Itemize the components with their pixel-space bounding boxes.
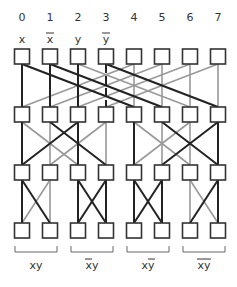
output-bracket-3	[183, 246, 225, 252]
node-r3-c3	[99, 223, 114, 238]
node-r3-c4	[127, 223, 142, 238]
node-r0-c3	[99, 49, 114, 64]
node-r1-c1	[43, 107, 58, 122]
node-r1-c5	[155, 107, 170, 122]
node-r3-c2	[71, 223, 86, 238]
node-r2-c5	[155, 165, 170, 180]
node-r1-c4	[127, 107, 142, 122]
node-r1-c2	[71, 107, 86, 122]
node-r0-c5	[155, 49, 170, 64]
output-bracket-0	[15, 246, 57, 252]
column-index-0: 0	[19, 11, 26, 24]
node-r2-c2	[71, 165, 86, 180]
column-index-4: 4	[131, 11, 138, 24]
node-r2-c6	[183, 165, 198, 180]
column-index-2: 2	[75, 11, 82, 24]
output-label-1: xy	[85, 259, 99, 272]
output-label-3: xy	[197, 259, 211, 272]
node-r0-c0	[15, 49, 30, 64]
input-label-0: x	[19, 33, 26, 46]
node-r1-c0	[15, 107, 30, 122]
column-index-5: 5	[159, 11, 166, 24]
butterfly-network-diagram: 01234567xxyyxyxyxyxy	[0, 0, 237, 287]
node-r0-c2	[71, 49, 86, 64]
node-r2-c7	[211, 165, 226, 180]
node-r0-c4	[127, 49, 142, 64]
node-r0-c6	[183, 49, 198, 64]
network-edges	[22, 64, 218, 223]
node-r3-c0	[15, 223, 30, 238]
node-r2-c1	[43, 165, 58, 180]
output-bracket-1	[71, 246, 113, 252]
node-r0-c7	[211, 49, 226, 64]
input-label-1: x	[47, 33, 54, 46]
column-index-1: 1	[47, 11, 54, 24]
output-label-0: xy	[29, 259, 43, 272]
input-label-3: y	[103, 33, 110, 46]
column-index-7: 7	[215, 11, 222, 24]
node-r1-c3	[99, 107, 114, 122]
node-r1-c7	[211, 107, 226, 122]
input-label-2: y	[75, 33, 82, 46]
node-r2-c0	[15, 165, 30, 180]
node-r2-c3	[99, 165, 114, 180]
node-r0-c1	[43, 49, 58, 64]
node-r3-c5	[155, 223, 170, 238]
column-index-6: 6	[187, 11, 194, 24]
node-r1-c6	[183, 107, 198, 122]
node-r3-c7	[211, 223, 226, 238]
network-nodes	[15, 49, 226, 238]
node-r3-c1	[43, 223, 58, 238]
node-r2-c4	[127, 165, 142, 180]
column-index-3: 3	[103, 11, 110, 24]
output-bracket-2	[127, 246, 169, 252]
output-label-2: xy	[141, 259, 155, 272]
node-r3-c6	[183, 223, 198, 238]
